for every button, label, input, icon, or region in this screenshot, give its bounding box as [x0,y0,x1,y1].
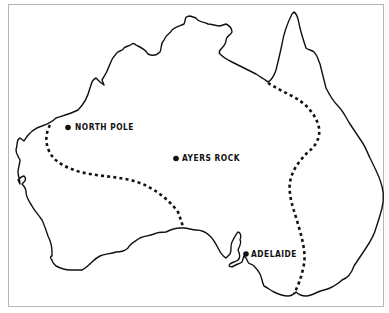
boundary-east [268,83,319,294]
city-label-ayers-rock: AYERS ROCK [182,154,240,163]
city-label-north-pole: NORTH POLE [75,123,134,132]
city-dot-ayers-rock [173,156,179,162]
city-dot-north-pole [65,125,71,131]
boundary-west [46,125,183,228]
city-dot-adelaide [243,251,249,257]
city-label-adelaide: ADELAIDE [251,250,297,259]
